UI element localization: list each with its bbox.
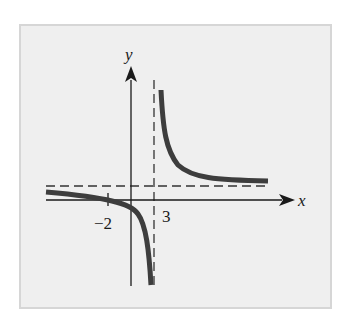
y-axis-label: y — [123, 45, 133, 64]
rational-function-graph: x y −2 3 — [0, 0, 348, 330]
tick-label-3: 3 — [162, 207, 171, 226]
x-axis-label: x — [297, 191, 306, 210]
plot-background — [20, 25, 331, 308]
tick-label-neg2: −2 — [94, 214, 112, 233]
